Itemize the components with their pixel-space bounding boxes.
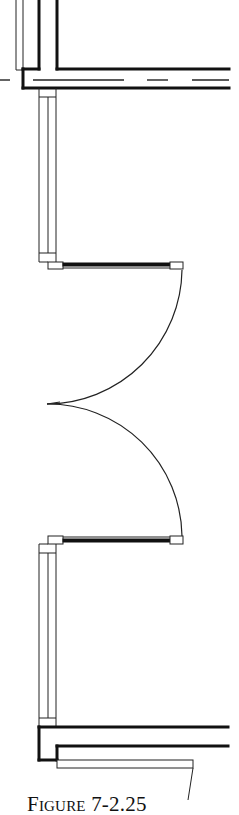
lower-window [39,544,56,727]
lower-wall [39,727,228,760]
upper-door-swing-arc [47,270,182,404]
upper-vertical-wall [16,0,57,70]
upper-door-leaf [48,262,183,269]
figure-caption: Figure 7-2.25 [27,792,147,815]
upper-horizontal-wall [0,69,229,88]
lower-door-leaf [48,536,183,544]
lower-door-swing-arc [47,404,182,536]
floor-plan-drawing [0,0,239,815]
upper-window [39,88,56,262]
